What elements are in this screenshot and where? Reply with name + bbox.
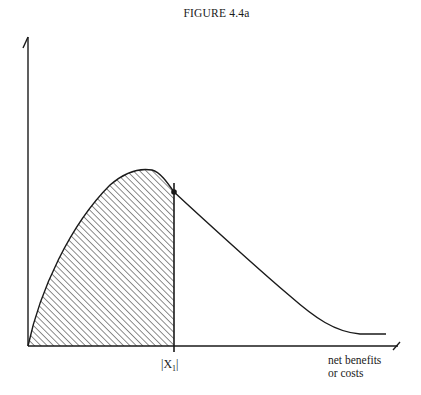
- x1-marker-dot: [171, 189, 177, 195]
- chart-plot: [0, 0, 421, 395]
- x1-tick-label: |X1|: [161, 357, 178, 373]
- y-axis-arrow-hook: [23, 37, 28, 48]
- x-axis-label-line2: or costs: [328, 367, 381, 380]
- x-axis-label-line1: net benefits: [328, 354, 381, 367]
- x-axis-label: net benefits or costs: [328, 354, 381, 380]
- hatched-region: [28, 170, 174, 346]
